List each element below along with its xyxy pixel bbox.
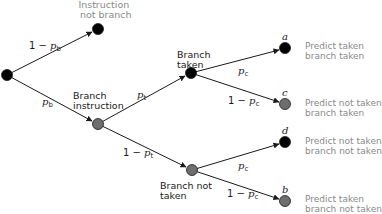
label-branch-instruction: Branch instruction <box>73 91 124 111</box>
leaf-letter-d: d <box>282 125 288 136</box>
node-branch-not-taken <box>187 165 198 176</box>
node-d <box>280 137 291 148</box>
node-a <box>280 43 291 54</box>
prob-sub: b <box>57 45 61 53</box>
label-line: instruction <box>73 101 124 111</box>
prob-taken-c: 1 − pc <box>228 95 259 108</box>
prob-sub: t <box>151 152 154 160</box>
outcome-line: branch taken <box>305 51 364 61</box>
label-instruction-not-branch: Instruction not branch <box>76 0 132 20</box>
edge-not-taken-d <box>192 144 279 170</box>
outcome-line: Predict not taken <box>305 136 382 146</box>
outcome-c: Predict not taken branch taken <box>305 98 382 118</box>
outcome-line: Predict not taken <box>305 98 382 108</box>
label-line: taken <box>177 60 211 70</box>
prob-not-taken-d: pc <box>238 160 248 173</box>
prob-sub: c <box>255 193 259 201</box>
prob-sub: b <box>48 101 52 109</box>
node-not-branch <box>93 24 104 35</box>
prob-branch-taken: pt <box>137 89 146 102</box>
prob-taken-a: pc <box>238 65 248 78</box>
prob-branch-not-taken: 1 − pt <box>123 147 153 160</box>
prob-sub: t <box>143 94 146 102</box>
edge-branch-not-taken <box>98 124 186 167</box>
outcome-a: Predict taken branch taken <box>305 41 364 61</box>
outcome-line: branch not taken <box>305 146 382 156</box>
outcome-line: branch not taken <box>305 204 382 214</box>
node-c <box>280 99 291 110</box>
prob-sub: c <box>256 100 260 108</box>
node-root <box>2 70 13 81</box>
label-branch-taken: Branch taken <box>177 50 211 70</box>
prob-root-not-branch: 1 − pb <box>29 40 61 53</box>
leaf-letter-a: a <box>282 31 288 42</box>
outcome-d: Predict not taken branch not taken <box>305 136 382 156</box>
label-branch-not-taken: Branch not taken <box>160 181 212 201</box>
outcome-b: Predict taken branch not taken <box>305 194 382 214</box>
prob-sub: c <box>244 165 248 173</box>
prob-prefix: 1 − <box>29 40 50 51</box>
outcome-line: Predict taken <box>305 41 364 51</box>
node-b <box>280 196 291 207</box>
prob-prefix: 1 − <box>227 188 248 199</box>
label-line: taken <box>160 191 212 201</box>
leaf-letter-c: c <box>282 87 288 98</box>
prob-not-taken-b: 1 − pc <box>227 188 258 201</box>
prob-sub: c <box>244 70 248 78</box>
edge-root-not-branch <box>7 32 92 75</box>
prob-root-branch: pb <box>42 96 53 109</box>
outcome-line: branch taken <box>305 108 382 118</box>
prob-prefix: 1 − <box>123 147 144 158</box>
label-line: not branch <box>76 10 132 20</box>
prob-prefix: 1 − <box>228 95 249 106</box>
node-branch-instruction <box>93 119 104 130</box>
leaf-letter-b: b <box>282 184 288 195</box>
outcome-line: Predict taken <box>305 194 382 204</box>
